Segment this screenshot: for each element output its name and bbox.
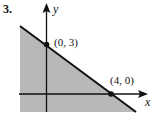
- point-label-0-3: (0, 3): [54, 36, 78, 49]
- point-4-0: [108, 91, 114, 97]
- y-axis-label: y: [52, 2, 59, 16]
- point-0-3: [44, 42, 50, 48]
- x-axis-label: x: [144, 95, 151, 109]
- point-label-4-0: (4, 0): [110, 74, 134, 87]
- graph: y x (0, 3) (4, 0): [0, 0, 156, 124]
